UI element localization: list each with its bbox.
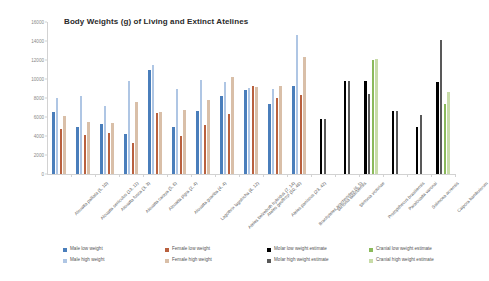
- bar-group: [335, 22, 359, 174]
- bar: [176, 89, 179, 174]
- bar: [84, 135, 87, 174]
- bar: [200, 80, 203, 174]
- bar-group: [143, 22, 167, 174]
- bar: [279, 86, 282, 174]
- x-axis-tick-mark: [167, 174, 168, 177]
- bar: [63, 116, 66, 174]
- bar: [183, 110, 186, 174]
- legend-label: Male low weight: [70, 247, 103, 252]
- bar: [440, 40, 443, 174]
- legend-label: Molar low weight estimate: [274, 247, 327, 252]
- bar: [204, 125, 207, 174]
- legend-swatch-icon: [369, 248, 373, 252]
- legend-label: Cranial low weight estimate: [376, 247, 432, 252]
- bar: [87, 122, 90, 174]
- bar: [272, 89, 275, 174]
- legend-label: Male high weight: [70, 258, 104, 263]
- bar-group: [167, 22, 191, 174]
- legend-swatch-icon: [63, 259, 67, 263]
- x-axis-tick-label: Stirtonia tatacoensis: [336, 181, 367, 212]
- bar-group: [359, 22, 383, 174]
- bar: [76, 127, 79, 175]
- bar-group: [431, 22, 455, 174]
- x-axis-tick-label: Ateles paniscus (23, 42): [290, 181, 327, 218]
- x-axis-tick-mark: [359, 174, 360, 177]
- bar: [244, 90, 247, 174]
- bar: [420, 115, 423, 174]
- x-axis-tick-label: Solimoea acrensis: [431, 181, 460, 210]
- x-axis-tick-mark: [263, 174, 264, 177]
- legend-item[interactable]: Molar low weight estimate: [267, 244, 329, 255]
- bar: [344, 81, 347, 174]
- bar-group: [191, 22, 215, 174]
- x-axis-tick-mark: [95, 174, 96, 177]
- bar: [148, 70, 151, 174]
- bar-group: [215, 22, 239, 174]
- x-axis-tick-label: Brachyteles arachnoides (6, 5): [318, 181, 364, 227]
- x-axis-tick-label: Alouatta seniculus (13, 11): [99, 181, 139, 221]
- legend-item[interactable]: Male high weight: [63, 255, 104, 266]
- bar: [303, 57, 306, 174]
- bar: [52, 112, 55, 174]
- legend-label: Female high weight: [172, 258, 212, 263]
- legend-swatch-icon: [267, 259, 271, 263]
- bar: [296, 35, 299, 174]
- legend-item[interactable]: Cranial high weight estimate: [369, 255, 434, 266]
- bar-group: [263, 22, 287, 174]
- bar: [444, 104, 447, 174]
- bar-group: [407, 22, 431, 174]
- legend-label: Cranial high weight estimate: [376, 258, 434, 263]
- bar: [368, 94, 371, 174]
- x-axis-tick-mark: [455, 174, 456, 177]
- legend-item[interactable]: Molar high weight estimate: [267, 255, 329, 266]
- plot-area: 0200040006000800010000120001400016000: [47, 22, 455, 174]
- x-axis-tick-mark: [287, 174, 288, 177]
- x-axis-tick-mark: [71, 174, 72, 177]
- x-axis-line: [47, 174, 456, 175]
- legend-item[interactable]: Female low weight: [165, 244, 212, 255]
- bar: [231, 77, 234, 174]
- bar: [348, 81, 351, 174]
- bar: [159, 112, 162, 174]
- bar: [180, 136, 183, 174]
- x-axis-tick-mark: [239, 174, 240, 177]
- bar: [320, 119, 323, 174]
- legend-label: Female low weight: [172, 247, 210, 252]
- x-axis-tick-mark: [335, 174, 336, 177]
- legend-item[interactable]: Female high weight: [165, 255, 212, 266]
- legend-swatch-icon: [165, 259, 169, 263]
- bar: [248, 88, 251, 174]
- chart-legend: Male low weightMale high weightFemale lo…: [63, 244, 455, 268]
- bar: [108, 133, 111, 174]
- bar: [228, 114, 231, 174]
- bar: [300, 95, 303, 174]
- bar: [124, 134, 127, 174]
- x-axis-tick-label: Ateles geoffroyi (50, 46): [266, 181, 302, 217]
- legend-swatch-icon: [63, 248, 67, 252]
- legend-column: Female low weightFemale high weight: [165, 244, 212, 266]
- legend-item[interactable]: Cranial low weight estimate: [369, 244, 434, 255]
- x-axis-tick-mark: [383, 174, 384, 177]
- bar: [104, 106, 107, 174]
- x-axis-tick-mark: [407, 174, 408, 177]
- legend-label: Molar high weight estimate: [274, 258, 329, 263]
- x-axis-tick-label: Stirtonia victoriae: [358, 181, 385, 208]
- bar: [276, 98, 279, 174]
- bar-group: [239, 22, 263, 174]
- y-axis-tick-label: 12000: [31, 58, 44, 63]
- bar: [372, 60, 375, 174]
- bar: [324, 119, 327, 174]
- y-axis-tick-label: 6000: [34, 115, 44, 120]
- legend-item[interactable]: Male low weight: [63, 244, 104, 255]
- x-axis-tick-label: Caipora bambuiorum: [456, 181, 489, 214]
- x-axis-tick-label: Protopithecus brasiliensis: [387, 181, 426, 220]
- bar: [152, 65, 155, 174]
- bar: [196, 111, 199, 174]
- legend-column: Molar low weight estimateMolar high weig…: [267, 244, 329, 266]
- bar: [416, 127, 419, 174]
- x-axis-tick-mark: [215, 174, 216, 177]
- bar-group: [119, 22, 143, 174]
- x-axis-tick-label: Alouatta pigra (2, 4): [168, 181, 199, 212]
- bar: [292, 86, 295, 174]
